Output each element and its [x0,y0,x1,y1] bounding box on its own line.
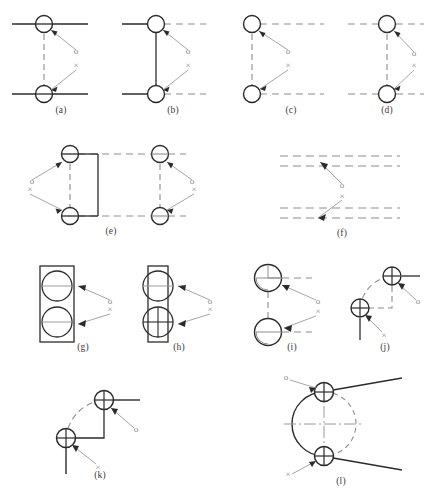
leader-line-o [290,380,316,388]
panel-i-caption: (i) [240,342,344,352]
marker-label-x: × [107,304,112,314]
panel-g-caption: (g) [28,342,138,352]
panel-i-drawing: o × [240,262,344,348]
panel-k-caption: (k) [40,470,160,480]
panel-f-drawing: o × [272,144,412,232]
marker-label-x: × [73,60,78,70]
panel-l-caption: (l) [266,476,416,486]
panel-h-caption: (h) [124,342,234,352]
marker-label-o: o [186,46,191,56]
marker-label-o: o [284,372,289,382]
figure-root: o × (a) o × (b) [0,0,430,504]
panel-c-caption: (c) [236,105,346,115]
panel-g-drawing: o × [28,262,138,348]
panel-a-drawing: o × [6,8,116,108]
leader-arrow-o [163,30,170,36]
panel-e-caption: (e) [16,226,206,236]
panel-e: o × o × (e) [16,140,206,235]
panel-a: o × (a) [6,8,116,108]
panel-a-caption: (a) [6,105,116,115]
marker-label-o: o [316,296,321,306]
marker-label-x: × [411,60,416,70]
leader-line-x [51,70,76,90]
panel-k-drawing: o × [40,382,160,482]
marker-label-o: o [340,180,345,190]
marker-label-x: × [381,330,386,340]
panel-h: o × (h) [124,262,234,348]
marker-label-o: o [286,46,291,56]
panel-j-caption: (j) [340,342,430,352]
panel-j: o × (j) [340,262,430,352]
junction-circle-bottom [379,86,396,103]
marker-label-x-right: × [191,184,196,194]
panel-f: o × (f) [272,144,412,232]
marker-label-o: o [416,296,421,306]
leader-arrow-o [259,31,266,38]
marker-label-o: o [412,48,417,58]
panel-k: o × (k) [40,382,160,482]
marker-label-x: × [285,60,290,70]
panel-j-drawing: o × [340,262,430,352]
panel-h-drawing: o × [124,262,234,348]
tangent-ray-top [333,378,402,390]
junction-circle-top [148,16,165,33]
panel-e-drawing: o × o × [16,140,206,235]
leader-arrow-o [111,408,118,415]
marker-label-x: × [185,60,190,70]
marker-label-o: o [134,424,139,434]
marker-label-x: × [315,306,320,316]
panel-b: o × (b) [118,8,228,108]
leader-arrow-o [78,285,86,291]
panel-b-drawing: o × [118,8,228,108]
leader-line-x-left [30,194,62,210]
panel-b-caption: (b) [118,105,228,115]
panel-c: o × (c) [236,8,346,108]
leader-arrow-o-left [56,162,63,169]
junction-circle-top [244,16,261,33]
marker-label-x: × [339,191,344,201]
leader-arrow-x [78,320,86,327]
leader-line-x [260,70,288,89]
leader-arrow-o [51,30,58,36]
leader-line-x [163,70,188,90]
marker-label-x-left: × [27,184,32,194]
marker-label-x: × [207,304,212,314]
leader-line-x [394,70,414,89]
marker-label-o: o [74,46,79,56]
junction-circle-top [379,16,396,33]
junction-circle-bottom [244,86,261,103]
panel-i: o × (i) [240,262,344,348]
panel-d: o × (d) [344,8,430,108]
leader-arrow-o [178,285,186,291]
leader-line-x [318,200,342,218]
leader-line-x-right [167,194,194,210]
panel-l-drawing: o × [266,376,416,478]
tangent-ray-bottom [333,458,402,470]
panel-c-drawing: o × [236,8,346,108]
leader-arrow-x [178,320,186,327]
panel-d-caption: (d) [344,105,430,115]
leader-arrow-o-right [167,162,174,169]
panel-g: o × (g) [28,262,138,348]
leader-arrow-x [72,445,79,452]
panel-l: o × (l) [266,376,416,478]
panel-f-caption: (f) [272,228,412,238]
panel-d-drawing: o × [344,8,430,108]
junction-circle-bottom [148,86,165,103]
